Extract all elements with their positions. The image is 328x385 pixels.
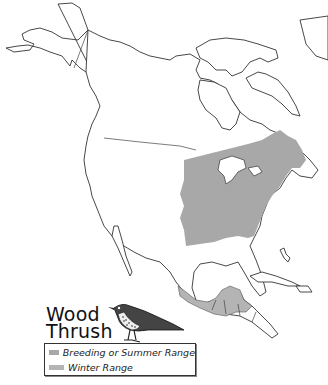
legend-label-winter: Winter Range <box>68 362 133 373</box>
legend-item-breeding: Breeding or Summer Range <box>49 346 195 359</box>
map-title: Wood Thrush <box>46 306 113 340</box>
bird-eye <box>118 307 120 309</box>
baffin-island <box>246 72 300 116</box>
legend-item-winter: Winter Range <box>49 361 195 374</box>
bird-legs <box>124 330 140 342</box>
wood-thrush-illustration <box>108 300 188 348</box>
greenland <box>300 16 328 60</box>
arctic-islands <box>196 38 278 76</box>
legend-label-breeding: Breeding or Summer Range <box>63 347 195 358</box>
bahamas <box>280 248 290 262</box>
breeding-swatch <box>49 350 59 355</box>
title-line-2: Thrush <box>46 323 113 340</box>
hispaniola <box>296 286 312 292</box>
alaska <box>6 3 90 72</box>
winter-swatch <box>49 365 64 370</box>
map-legend: Breeding or Summer Range Winter Range <box>44 343 196 376</box>
bird-beak <box>108 307 114 310</box>
